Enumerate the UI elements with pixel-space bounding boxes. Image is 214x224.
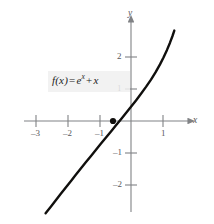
equation-lhs: f(x) [52, 74, 68, 86]
root-point-marker [110, 118, 116, 124]
x-tick-label-neg3: –3 [31, 129, 40, 138]
x-tick-label-neg2: –2 [63, 129, 72, 138]
function-graph-figure: –3 –2 –1 1 2 1 –1 –2 x y f(x)=ex+x [0, 0, 214, 224]
y-tick-label-neg2: –2 [113, 180, 122, 189]
x-tick-label-pos1: 1 [161, 129, 166, 138]
equation-term: x [94, 74, 99, 86]
y-tick-label-pos2: 2 [117, 52, 122, 61]
y-axis-label: y [128, 9, 132, 19]
equation-plus: + [85, 74, 93, 86]
x-axis-label: x [193, 116, 197, 126]
function-equation-label: f(x)=ex+x [52, 75, 99, 86]
y-tick-label-neg1: –1 [113, 148, 122, 157]
x-tick-label-neg1: –1 [95, 129, 104, 138]
plot-canvas [0, 0, 214, 224]
function-curve [46, 31, 175, 214]
